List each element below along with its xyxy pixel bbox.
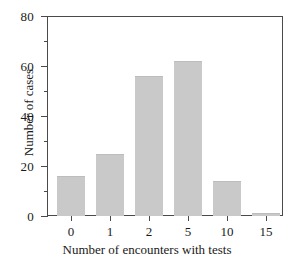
y-tick-50 xyxy=(44,91,49,92)
bar-1 xyxy=(96,154,124,217)
x-tick-1 xyxy=(110,216,111,221)
y-tick-label-0: 0 xyxy=(0,210,34,223)
bar-2 xyxy=(135,76,163,216)
x-tick-10 xyxy=(227,216,228,221)
x-tick-label-5: 5 xyxy=(168,224,208,239)
y-tick-10 xyxy=(44,191,49,192)
x-tick-0 xyxy=(71,216,72,221)
x-tick-2 xyxy=(149,216,150,221)
x-tick-label-15: 15 xyxy=(246,224,286,239)
y-tick-60 xyxy=(41,66,48,67)
x-tick-label-10: 10 xyxy=(207,224,247,239)
y-tick-20 xyxy=(41,166,48,167)
x-tick-label-1: 1 xyxy=(90,224,130,239)
bar-4 xyxy=(213,181,241,216)
bars-layer xyxy=(47,16,283,216)
bar-0 xyxy=(57,176,85,216)
y-tick-0 xyxy=(41,216,48,217)
x-axis-title: Number of encounters with tests xyxy=(0,242,294,257)
x-tick-label-2: 2 xyxy=(129,224,169,239)
y-tick-40 xyxy=(41,116,48,117)
bar-3 xyxy=(174,61,202,216)
y-tick-80 xyxy=(41,16,48,17)
x-tick-5 xyxy=(188,216,189,221)
y-axis-title: Number of cases xyxy=(21,33,36,193)
x-tick-15 xyxy=(266,216,267,221)
x-tick-label-0: 0 xyxy=(51,224,91,239)
y-tick-70 xyxy=(44,41,49,42)
y-tick-label-80: 80 xyxy=(0,10,34,23)
y-tick-30 xyxy=(44,141,49,142)
bar-chart: 80 60 40 20 0 0 1 2 5 10 15 Number of en… xyxy=(0,0,294,262)
